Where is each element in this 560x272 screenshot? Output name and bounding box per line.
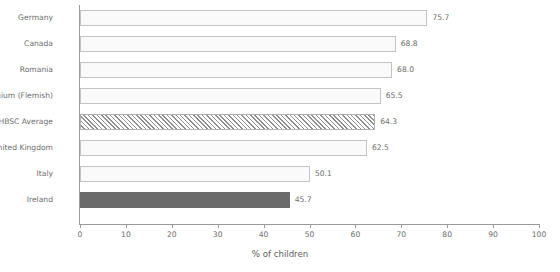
bar-value-label: 62.5 bbox=[367, 140, 389, 156]
bar-row: United Kingdom62.5 bbox=[80, 135, 539, 161]
x-tick bbox=[401, 224, 402, 228]
x-tick bbox=[126, 224, 127, 228]
category-label: Canada bbox=[24, 31, 53, 57]
x-tick bbox=[355, 224, 356, 228]
category-label: HBSC Average bbox=[0, 109, 53, 135]
bar-row: Canada68.8 bbox=[80, 31, 539, 57]
bar-value-label: 68.8 bbox=[396, 36, 418, 52]
bar-row: Belgium (Flemish)65.5 bbox=[80, 83, 539, 109]
category-label: Romania bbox=[20, 57, 53, 83]
bar-belgium-flemish bbox=[80, 88, 381, 104]
bar-value-label: 75.7 bbox=[427, 10, 449, 26]
bar-row: Italy50.1 bbox=[80, 161, 539, 187]
bar-value-label: 45.7 bbox=[290, 192, 312, 208]
bar-value-label: 50.1 bbox=[310, 166, 332, 182]
x-tick-label: 70 bbox=[396, 230, 406, 239]
x-tick bbox=[172, 224, 173, 228]
bar-chart: Germany75.7Canada68.8Romania68.0Belgium … bbox=[0, 0, 560, 272]
x-tick bbox=[264, 224, 265, 228]
x-tick-label: 40 bbox=[259, 230, 269, 239]
x-tick bbox=[310, 224, 311, 228]
category-label: Germany bbox=[18, 5, 53, 31]
bar-value-label: 64.3 bbox=[375, 114, 397, 130]
bar-row: Ireland45.7 bbox=[80, 187, 539, 213]
bar-ireland bbox=[80, 192, 290, 208]
x-tick-label: 0 bbox=[78, 230, 83, 239]
bar-value-label: 65.5 bbox=[381, 88, 403, 104]
plot-area: Germany75.7Canada68.8Romania68.0Belgium … bbox=[80, 5, 539, 224]
x-tick bbox=[493, 224, 494, 228]
bar-hbsc-average bbox=[80, 114, 375, 130]
bar-italy bbox=[80, 166, 310, 182]
x-tick-label: 90 bbox=[488, 230, 498, 239]
category-label: Ireland bbox=[27, 187, 53, 213]
bar-row: Romania68.0 bbox=[80, 57, 539, 83]
bar-united-kingdom bbox=[80, 140, 367, 156]
bar-value-label: 68.0 bbox=[392, 62, 414, 78]
x-tick bbox=[539, 224, 540, 228]
x-tick bbox=[447, 224, 448, 228]
category-label: Belgium (Flemish) bbox=[0, 83, 53, 109]
x-tick bbox=[80, 224, 81, 228]
x-tick-label: 10 bbox=[121, 230, 131, 239]
bar-germany bbox=[80, 10, 427, 26]
bar-romania bbox=[80, 62, 392, 78]
bar-canada bbox=[80, 36, 396, 52]
x-tick-label: 30 bbox=[213, 230, 223, 239]
category-label: United Kingdom bbox=[0, 135, 53, 161]
x-tick-label: 80 bbox=[442, 230, 452, 239]
x-tick-label: 60 bbox=[351, 230, 361, 239]
x-tick-label: 50 bbox=[305, 230, 315, 239]
x-axis-title: % of children bbox=[0, 249, 560, 259]
x-tick-label: 20 bbox=[167, 230, 177, 239]
x-tick-label: 100 bbox=[532, 230, 547, 239]
bar-row: Germany75.7 bbox=[80, 5, 539, 31]
category-label: Italy bbox=[37, 161, 53, 187]
bar-row: HBSC Average64.3 bbox=[80, 109, 539, 135]
x-tick bbox=[218, 224, 219, 228]
